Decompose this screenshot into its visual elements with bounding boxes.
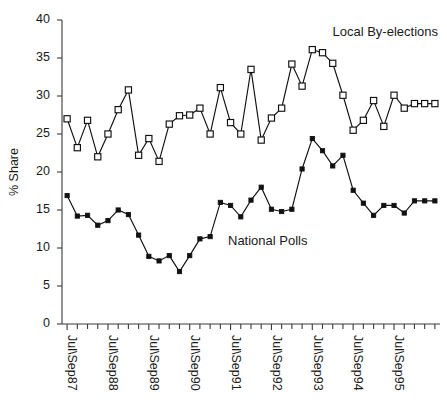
- data-point-marker: [331, 164, 335, 168]
- data-point-marker: [146, 135, 152, 141]
- data-point-marker: [392, 203, 396, 207]
- data-point-marker: [116, 208, 120, 212]
- data-point-marker: [350, 127, 356, 133]
- y-tick-label: 40: [36, 12, 50, 26]
- data-point-marker: [74, 145, 80, 151]
- data-point-marker: [176, 113, 182, 119]
- series-label-national-polls: National Polls: [228, 233, 308, 248]
- series-national-polls: [65, 136, 437, 273]
- data-point-marker: [423, 199, 427, 203]
- data-point-marker: [299, 83, 305, 89]
- series-label-local-by-elections: Local By-elections: [333, 24, 439, 39]
- data-point-marker: [258, 137, 264, 143]
- data-point-marker: [341, 153, 345, 157]
- data-point-marker: [125, 87, 131, 93]
- x-tick-label: Jul\Sep92: [270, 335, 284, 391]
- data-point-marker: [217, 85, 223, 91]
- data-point-marker: [401, 105, 407, 111]
- data-point-marker: [412, 199, 416, 203]
- x-tick-group: [67, 324, 435, 330]
- y-tick-label: 25: [36, 126, 50, 140]
- x-tick-label: Jul\Sep94: [351, 335, 365, 391]
- data-point-marker: [259, 185, 263, 189]
- data-point-marker: [289, 61, 295, 67]
- x-tick-label: Jul\Sep95: [392, 335, 406, 391]
- data-point-marker: [422, 101, 428, 107]
- x-tick-label: Jul\Sep93: [311, 335, 325, 391]
- data-point-marker: [105, 131, 111, 137]
- data-point-marker: [330, 60, 336, 66]
- data-point-marker: [370, 97, 376, 103]
- x-tick-label-group: Jul\Sep87Jul\Sep88Jul\Sep89Jul\Sep90Jul\…: [65, 335, 406, 391]
- data-point-marker: [433, 199, 437, 203]
- data-point-marker: [411, 101, 417, 107]
- data-point-marker: [136, 152, 142, 158]
- data-point-marker: [228, 203, 232, 207]
- data-point-marker: [280, 209, 284, 213]
- data-point-marker: [309, 47, 315, 53]
- data-point-marker: [137, 233, 141, 237]
- data-point-marker: [269, 207, 273, 211]
- data-point-marker: [279, 105, 285, 111]
- x-tick-label: Jul\Sep90: [188, 335, 202, 391]
- data-point-marker: [371, 213, 375, 217]
- data-point-marker: [249, 198, 253, 202]
- y-tick-label: 20: [36, 164, 50, 178]
- y-tick-label: 30: [36, 88, 50, 102]
- data-point-marker: [75, 214, 79, 218]
- data-point-marker: [197, 105, 203, 111]
- x-tick-label: Jul\Sep87: [65, 335, 79, 391]
- data-point-marker: [361, 201, 365, 205]
- data-point-marker: [85, 213, 89, 217]
- data-point-marker: [268, 115, 274, 121]
- data-point-marker: [207, 131, 213, 137]
- data-point-marker: [96, 223, 100, 227]
- data-point-marker: [360, 117, 366, 123]
- data-point-marker: [177, 269, 181, 273]
- y-tick-label: 0: [43, 316, 50, 330]
- data-point-marker: [65, 193, 69, 197]
- data-point-marker: [156, 158, 162, 164]
- data-point-marker: [147, 254, 151, 258]
- x-axis-group: [62, 324, 440, 330]
- data-point-marker: [248, 66, 254, 72]
- y-axis-title: % Share: [7, 148, 21, 196]
- data-point-marker: [238, 131, 244, 137]
- data-point-marker: [290, 207, 294, 211]
- data-point-marker: [166, 121, 172, 127]
- data-point-marker: [381, 123, 387, 129]
- y-tick-label: 35: [36, 50, 50, 64]
- data-point-marker: [187, 112, 193, 118]
- data-point-marker: [84, 117, 90, 123]
- y-tick-label: 10: [36, 240, 50, 254]
- y-tick-label: 5: [43, 278, 50, 292]
- y-tick-label: 15: [36, 202, 50, 216]
- data-point-marker: [300, 167, 304, 171]
- data-point-marker: [340, 92, 346, 98]
- y-tick-group: 0510152025303540: [36, 12, 62, 330]
- data-point-marker: [218, 200, 222, 204]
- y-axis-group: 0510152025303540: [36, 12, 62, 330]
- data-point-marker: [188, 254, 192, 258]
- data-point-marker: [157, 259, 161, 263]
- data-point-marker: [391, 92, 397, 98]
- data-point-marker: [208, 235, 212, 239]
- line-chart: 0510152025303540 % Share Local By-electi…: [0, 0, 447, 410]
- data-point-marker: [95, 154, 101, 160]
- data-point-marker: [432, 101, 438, 107]
- data-point-marker: [239, 215, 243, 219]
- chart-container: 0510152025303540 % Share Local By-electi…: [0, 0, 447, 410]
- data-point-marker: [115, 107, 121, 113]
- data-point-marker: [402, 211, 406, 215]
- data-point-marker: [198, 237, 202, 241]
- data-point-marker: [126, 212, 130, 216]
- data-point-marker: [106, 219, 110, 223]
- x-tick-label: Jul\Sep89: [147, 335, 161, 391]
- series-local-by-elections: [64, 47, 438, 165]
- x-tick-label: Jul\Sep91: [229, 335, 243, 391]
- series-polyline: [67, 139, 435, 272]
- data-point-marker: [227, 120, 233, 126]
- data-point-marker: [310, 136, 314, 140]
- data-point-marker: [382, 203, 386, 207]
- x-tick-label: Jul\Sep88: [106, 335, 120, 391]
